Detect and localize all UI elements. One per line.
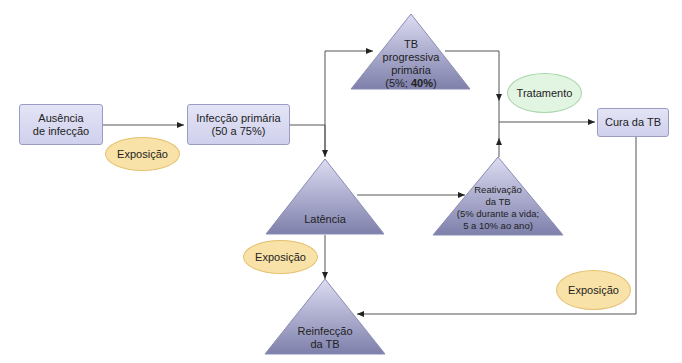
oval-exposicao-2: Exposição bbox=[243, 240, 318, 274]
oval-label: Exposição bbox=[255, 251, 306, 263]
label-reativacao: Reativação da TB (5% durante a vida; 5 a… bbox=[443, 184, 553, 232]
oval-label: Tratamento bbox=[517, 87, 573, 99]
oval-label: Exposição bbox=[117, 148, 168, 160]
label-line: Reinfecção bbox=[285, 325, 365, 338]
node-cura-tb: Cura da TB bbox=[597, 108, 669, 137]
label-line: Latência bbox=[304, 213, 346, 225]
oval-tratamento: Tratamento bbox=[507, 73, 582, 113]
label-part: (5%; bbox=[385, 77, 411, 89]
node-label: de infecção bbox=[33, 125, 89, 138]
label-latencia: Latência bbox=[285, 213, 365, 226]
label-line: primária bbox=[361, 64, 461, 77]
label-line: Reativação bbox=[443, 184, 553, 196]
node-label: Cura da TB bbox=[605, 116, 661, 129]
label-bold: 40% bbox=[411, 77, 433, 89]
node-label: Infecção primária bbox=[196, 112, 280, 125]
label-line: TB bbox=[361, 38, 461, 51]
label-line: (5% durante a vida; bbox=[443, 208, 553, 220]
label-line: (5%; 40%) bbox=[361, 77, 461, 90]
label-line: progressiva bbox=[361, 51, 461, 64]
node-ausencia-infeccao: Ausênciade infecção bbox=[19, 104, 103, 145]
oval-exposicao-3: Exposição bbox=[556, 270, 631, 310]
node-label: Ausência bbox=[33, 112, 89, 125]
label-reinfeccao: Reinfecção da TB bbox=[285, 325, 365, 351]
label-part: ) bbox=[433, 77, 437, 89]
label-line: da TB bbox=[443, 196, 553, 208]
node-infeccao-primaria: Infecção primária(50 a 75%) bbox=[187, 104, 290, 145]
oval-exposicao-1: Exposição bbox=[105, 137, 180, 171]
node-label: (50 a 75%) bbox=[196, 125, 280, 138]
label-line: 5 a 10% ao ano) bbox=[443, 220, 553, 232]
label-line: da TB bbox=[285, 338, 365, 351]
label-tb-progressiva: TB progressiva primária (5%; 40%) bbox=[361, 38, 461, 90]
oval-label: Exposição bbox=[568, 284, 619, 296]
